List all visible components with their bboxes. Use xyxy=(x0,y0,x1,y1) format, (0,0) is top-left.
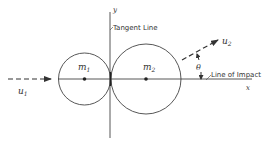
tangent-line-label: Tangent Line xyxy=(112,24,158,32)
mass-2-label: m2 xyxy=(143,62,156,73)
mass-1-label: m1 xyxy=(78,62,90,73)
sphere-m1-center xyxy=(83,77,87,81)
velocity-u1-label: u1 xyxy=(18,86,28,97)
collision-diagram: y x m1 m2 Tangent Line u1 u2 θ Line of I… xyxy=(0,0,274,147)
sphere-m2-center xyxy=(144,77,148,81)
x-axis-label: x xyxy=(246,84,250,92)
theta-upper-arrow xyxy=(197,54,199,60)
theta-label: θ xyxy=(196,63,201,72)
velocity-u2-label: u2 xyxy=(222,36,232,47)
line-of-impact-label: Line of Impact xyxy=(211,71,261,79)
velocity-u2-arrow xyxy=(182,40,218,60)
y-axis-label: y xyxy=(112,6,118,14)
